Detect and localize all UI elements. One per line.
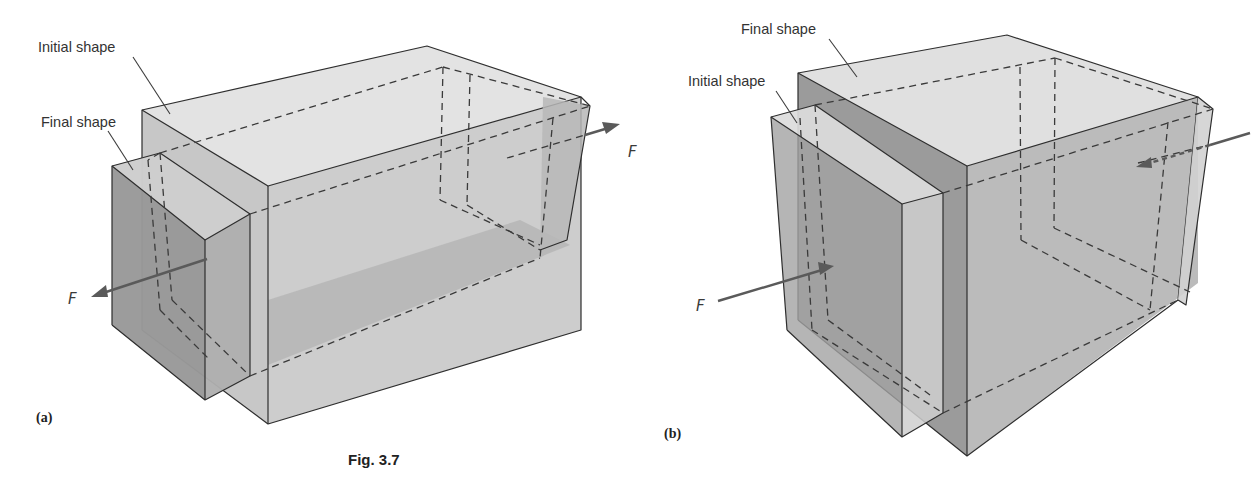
figure-canvas: Initial shape Final shape F F (a) Fig. 3… — [0, 0, 1258, 487]
panel-a-diagram — [91, 46, 620, 424]
leader-initial-a — [133, 57, 170, 114]
label-final-shape-b: Final shape — [741, 21, 816, 37]
force-label-left-a: F — [68, 290, 77, 308]
label-final-shape-a: Final shape — [41, 114, 116, 130]
panel-label-b: (b) — [664, 426, 681, 442]
figure-caption: Fig. 3.7 — [348, 451, 400, 468]
label-initial-shape-b: Initial shape — [688, 73, 765, 89]
panel-label-a: (a) — [36, 410, 53, 426]
force-label-left-b: F — [696, 297, 705, 315]
force-label-right-a: F — [628, 143, 637, 161]
panel-b-diagram — [718, 35, 1250, 456]
label-initial-shape-a: Initial shape — [38, 39, 115, 55]
force-arrow-right-a — [585, 122, 620, 135]
